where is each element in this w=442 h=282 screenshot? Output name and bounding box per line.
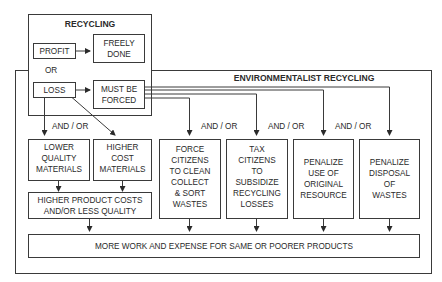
force-citizens-line-5: & SORT — [175, 189, 205, 198]
higher-cost-line-2: COST — [111, 154, 134, 163]
tax-citizens-line-6: LOSSES — [241, 200, 274, 209]
lower-quality-line-2: QUALITY — [41, 154, 77, 163]
force-citizens-line-3: TO CLEAN — [170, 167, 211, 176]
recycling-diagram: RECYCLING PROFIT FREELY DONE OR LOSS MUS… — [0, 0, 442, 282]
tax-citizens-line-3: TO — [251, 167, 262, 176]
lower-quality-line-1: LOWER — [44, 143, 74, 152]
tax-citizens-line-4: SUBSIDIZE — [235, 178, 279, 187]
penalize-use-line-3: ORIGINAL — [304, 180, 344, 189]
and-or-label-1: AND / OR — [52, 122, 88, 131]
penalize-disposal-line-1: PENALIZE — [370, 158, 410, 167]
must-be-forced-line-2: FORCED — [102, 96, 137, 105]
higher-product-costs-line-2: AND/OR LESS QUALITY — [44, 207, 137, 216]
freely-done-line-1: FREELY — [103, 39, 135, 48]
result-label: MORE WORK AND EXPENSE FOR SAME OR POORER… — [95, 242, 353, 251]
higher-product-costs-line-1: HIGHER PRODUCT COSTS — [38, 196, 143, 205]
force-citizens-line-2: CITIZENS — [171, 156, 209, 165]
and-or-label-4: AND / OR — [335, 122, 371, 131]
penalize-disposal-line-2: DISPOSAL — [369, 169, 410, 178]
lower-quality-line-3: MATERIALS — [36, 165, 82, 174]
force-citizens-line-4: COLLECT — [171, 178, 209, 187]
recycling-title: RECYCLING — [65, 19, 116, 29]
penalize-disposal-box — [360, 140, 420, 219]
loss-label: LOSS — [44, 86, 66, 95]
and-or-label-3: AND / OR — [268, 122, 304, 131]
tax-citizens-line-2: CITIZENS — [238, 156, 276, 165]
penalize-use-line-1: PENALIZE — [304, 158, 344, 167]
tax-citizens-line-5: RECYCLING — [233, 189, 281, 198]
penalize-use-box — [294, 140, 354, 219]
environmentalist-title: ENVIRONMENTALIST RECYCLING — [234, 73, 375, 83]
higher-cost-line-1: HIGHER — [107, 143, 139, 152]
force-citizens-line-1: FORCE — [176, 145, 205, 154]
penalize-disposal-line-3: OF — [384, 180, 395, 189]
freely-done-line-2: DONE — [107, 50, 131, 59]
force-citizens-line-6: WASTES — [173, 200, 208, 209]
profit-label: PROFIT — [39, 47, 69, 56]
tax-citizens-line-1: TAX — [249, 145, 265, 154]
and-or-label-2: AND / OR — [201, 122, 237, 131]
penalize-use-line-2: USE OF — [308, 169, 338, 178]
higher-cost-line-3: MATERIALS — [100, 165, 146, 174]
penalize-disposal-line-4: WASTES — [372, 191, 407, 200]
must-be-forced-line-1: MUST BE — [101, 85, 138, 94]
penalize-use-line-4: RESOURCE — [300, 191, 347, 200]
or-label: OR — [45, 66, 57, 75]
